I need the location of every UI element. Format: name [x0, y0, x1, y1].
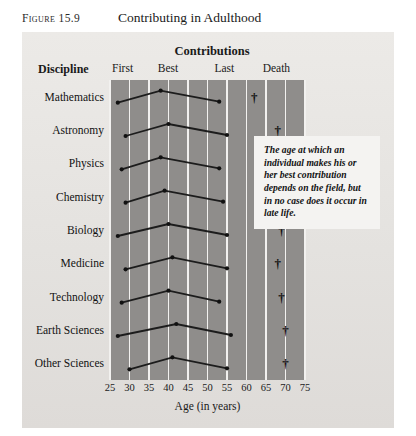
- series-row-chemistry: [124, 189, 226, 205]
- marker-best: [170, 355, 174, 359]
- figure-panel: Contributions Discipline FirstBestLastDe…: [22, 32, 394, 428]
- x-tick-55: 55: [222, 382, 233, 393]
- annotation-callout: The age at which an individual makes his…: [254, 136, 380, 229]
- contribution-line: [118, 91, 219, 103]
- discipline-label-other-sciences: Other Sciences: [35, 357, 104, 369]
- marker-best: [166, 222, 170, 226]
- marker-first: [116, 101, 120, 105]
- x-tick-50: 50: [202, 382, 213, 393]
- chart-plot-area: †††††††††: [110, 80, 305, 380]
- marker-last: [225, 266, 229, 270]
- contribution-line: [118, 224, 227, 236]
- x-tick-75: 75: [300, 382, 311, 393]
- x-tick-30: 30: [124, 382, 135, 393]
- marker-best: [170, 255, 174, 259]
- discipline-label-biology: Biology: [67, 224, 104, 236]
- death-marker-other-sciences: †: [282, 356, 289, 372]
- marker-last: [229, 333, 233, 337]
- discipline-label-column: MathematicsAstronomyPhysicsChemistryBiol…: [22, 80, 104, 380]
- x-tick-25: 25: [105, 382, 116, 393]
- marker-last: [217, 100, 221, 104]
- marker-first: [120, 301, 124, 305]
- x-tick-35: 35: [144, 382, 155, 393]
- marker-last: [225, 233, 229, 237]
- marker-first: [127, 367, 131, 371]
- discipline-label-earth-sciences: Earth Sciences: [36, 324, 104, 336]
- marker-first: [120, 167, 124, 171]
- contribution-line: [130, 357, 228, 369]
- discipline-label-chemistry: Chemistry: [56, 191, 104, 203]
- column-header-first: First: [112, 62, 133, 74]
- figure-number: Figure 15.9: [22, 12, 80, 24]
- x-tick-45: 45: [183, 382, 194, 393]
- contribution-line: [126, 257, 227, 269]
- column-header-last: Last: [214, 62, 234, 74]
- marker-first: [124, 201, 128, 205]
- marker-first: [124, 134, 128, 138]
- death-marker-earth-sciences: †: [282, 323, 289, 339]
- discipline-label-mathematics: Mathematics: [45, 91, 104, 103]
- discipline-label-technology: Technology: [50, 291, 104, 303]
- x-tick-65: 65: [261, 382, 272, 393]
- series-row-astronomy: [124, 122, 230, 138]
- column-header-death: Death: [263, 62, 290, 74]
- death-marker-medicine: †: [274, 256, 281, 272]
- column-header-best: Best: [158, 62, 178, 74]
- marker-first: [124, 267, 128, 271]
- x-tick-70: 70: [280, 382, 291, 393]
- marker-last: [221, 200, 225, 204]
- contribution-line: [126, 124, 227, 136]
- marker-last: [217, 166, 221, 170]
- series-row-medicine: [124, 255, 230, 271]
- x-axis-label: Age (in years): [110, 400, 305, 412]
- discipline-header: Discipline: [38, 62, 89, 77]
- series-row-biology: [116, 222, 229, 238]
- marker-best: [159, 89, 163, 93]
- marker-last: [225, 133, 229, 137]
- contribution-line: [126, 191, 224, 203]
- x-tick-60: 60: [241, 382, 252, 393]
- death-marker-mathematics: †: [251, 90, 258, 106]
- marker-first: [116, 334, 120, 338]
- discipline-label-physics: Physics: [69, 157, 104, 169]
- marker-best: [159, 155, 163, 159]
- contribution-line: [118, 324, 231, 336]
- series-row-mathematics: [116, 89, 222, 105]
- marker-last: [225, 366, 229, 370]
- death-marker-technology: †: [278, 290, 285, 306]
- contribution-line: [122, 291, 220, 303]
- marker-best: [174, 322, 178, 326]
- marker-last: [217, 300, 221, 304]
- series-row-physics: [120, 155, 222, 171]
- figure-title: Contributing in Adulthood: [118, 10, 261, 26]
- marker-best: [163, 189, 167, 193]
- x-tick-40: 40: [163, 382, 174, 393]
- series-row-technology: [120, 289, 222, 305]
- contributions-header: Contributions: [132, 44, 292, 59]
- marker-best: [166, 122, 170, 126]
- x-axis-ticks: 2530354045505560657075: [110, 382, 305, 400]
- marker-best: [166, 289, 170, 293]
- figure-header: Figure 15.9 Contributing in Adulthood: [0, 6, 416, 32]
- discipline-label-astronomy: Astronomy: [52, 124, 104, 136]
- series-row-other-sciences: [127, 355, 229, 371]
- marker-first: [116, 234, 120, 238]
- discipline-label-medicine: Medicine: [61, 257, 104, 269]
- series-row-earth-sciences: [116, 322, 233, 338]
- contribution-line: [122, 157, 220, 169]
